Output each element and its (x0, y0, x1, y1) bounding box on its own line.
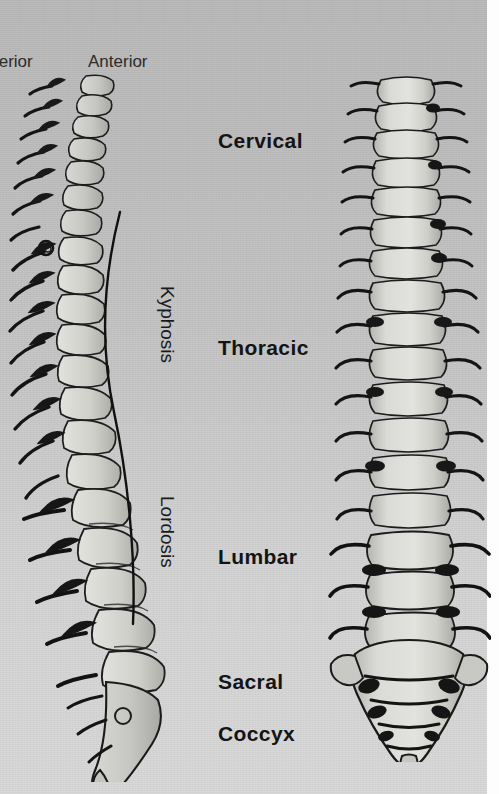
frontal-cervical-vertebrae (340, 77, 472, 279)
page-right-margin (487, 0, 499, 794)
curvature-curve-line (96, 196, 156, 636)
lateral-lumbar-vertebrae (24, 489, 165, 693)
lateral-spine-illustration (0, 70, 194, 782)
region-label-sacral: Sacral (218, 670, 283, 694)
curvature-label-kyphosis: Kyphosis (156, 286, 178, 363)
region-label-lumbar: Lumbar (218, 545, 297, 569)
orientation-label-anterior: Anterior (88, 52, 148, 72)
lateral-sacrum-and-coccyx (68, 682, 161, 782)
region-label-cervical: Cervical (218, 129, 303, 153)
frontal-thoracic-vertebrae (336, 280, 483, 528)
region-label-thoracic: Thoracic (218, 336, 309, 360)
frontal-sacrum-and-coccyx (331, 640, 488, 762)
frontal-spine-illustration (325, 72, 491, 762)
lateral-cervical-vertebrae (11, 75, 114, 255)
frontal-lumbar-vertebrae (330, 532, 490, 652)
lateral-thoracic-vertebrae (10, 237, 121, 498)
orientation-label-posterior: terior (0, 52, 33, 72)
anatomy-figure: terior Anterior Cervical Thoracic Lumbar… (0, 0, 499, 794)
curvature-label-lordosis: Lordosis (156, 496, 178, 568)
region-label-coccyx: Coccyx (218, 722, 295, 746)
